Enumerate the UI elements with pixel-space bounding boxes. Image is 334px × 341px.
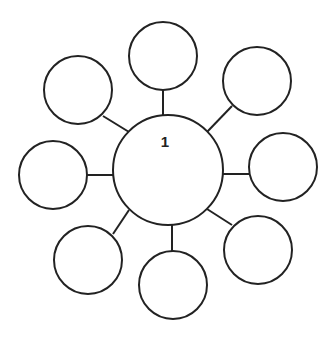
connector-line-bottom-left [113,210,129,234]
connector-line-bottom-right [207,209,232,225]
outer-bubble-top-right [223,47,291,115]
outer-bubble-bottom-left [54,226,122,294]
center-bubble-label: 1 [161,133,169,150]
connector-line-top-right [207,106,232,132]
outer-bubble-right [249,133,317,201]
bubble-map-diagram: 1 [0,0,334,341]
outer-bubble-bottom [139,251,207,319]
outer-bubble-top [129,22,197,90]
outer-bubble-bottom-right [224,216,292,284]
connector-line-top-left [103,116,129,132]
center-bubble [113,115,223,225]
outer-bubble-left [19,141,87,209]
outer-bubble-top-left [44,56,112,124]
